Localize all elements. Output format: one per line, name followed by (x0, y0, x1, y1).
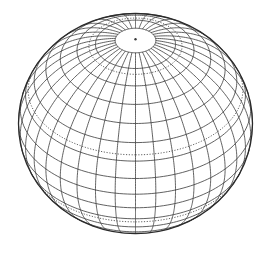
wireframe-sphere (0, 0, 271, 254)
north-pole-dot (134, 38, 136, 40)
globe-figure: Wireframe globe (0, 0, 271, 254)
